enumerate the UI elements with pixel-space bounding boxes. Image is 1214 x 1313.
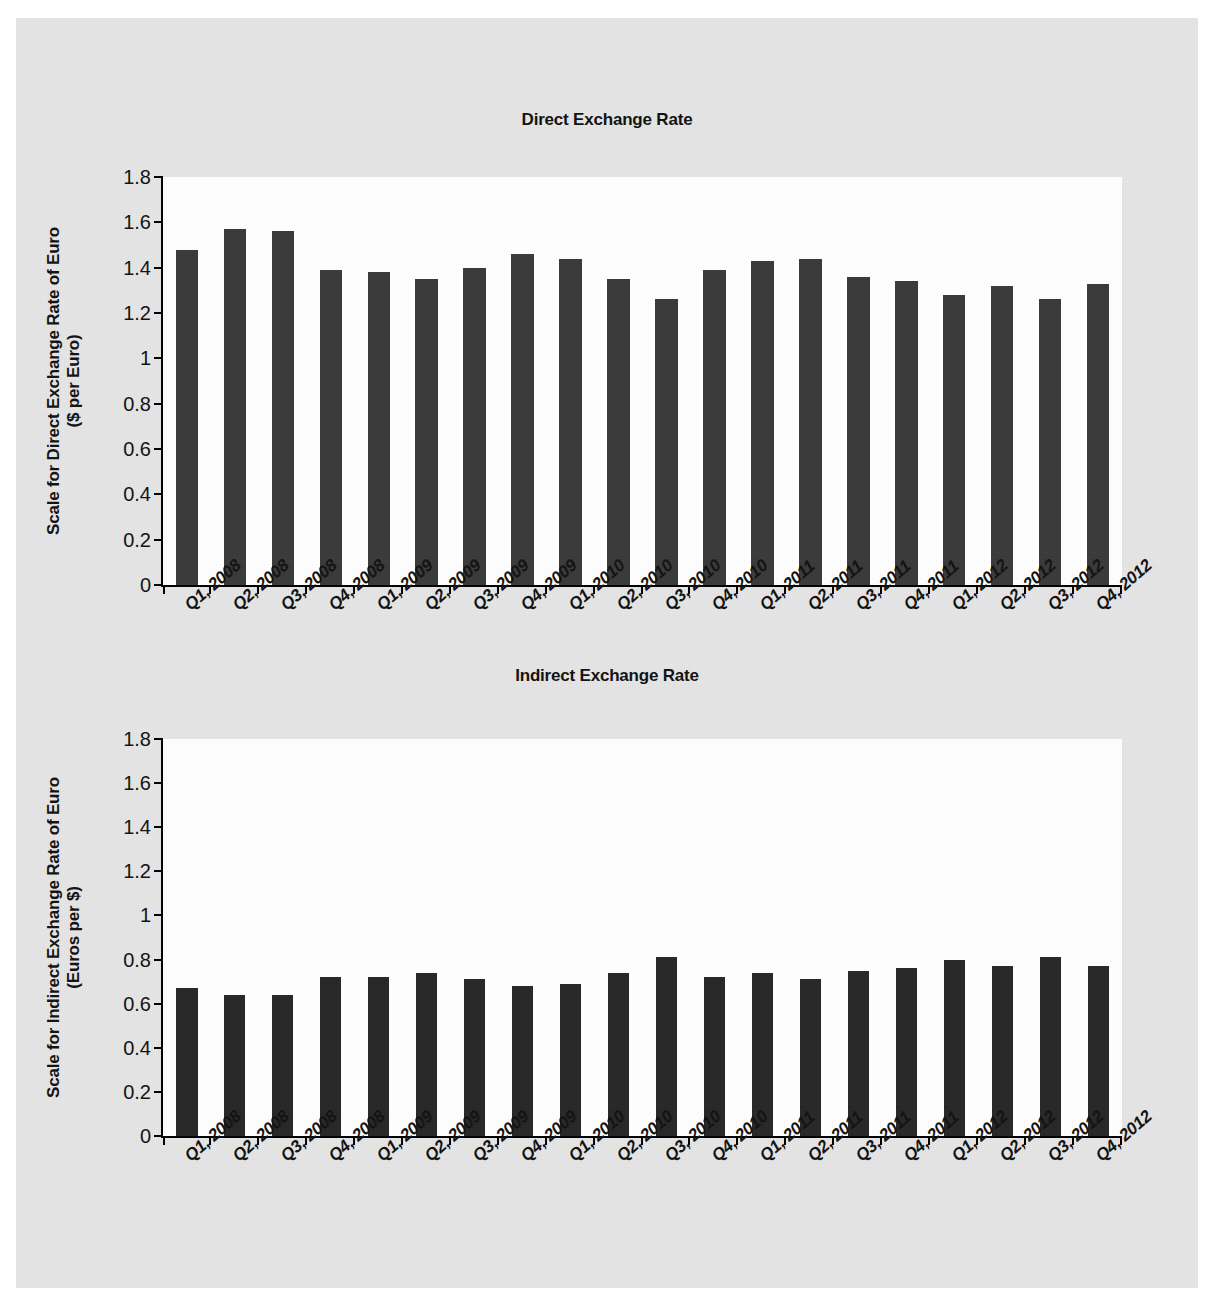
- x-label-slot: Q3, 2011: [832, 596, 880, 597]
- bar-slot[interactable]: [738, 177, 786, 585]
- bar[interactable]: [511, 254, 534, 585]
- bar[interactable]: [415, 279, 438, 585]
- x-label-slot: Q4, 2010: [688, 1147, 736, 1148]
- x-label-slot: Q3, 2012: [1024, 1147, 1072, 1148]
- bar[interactable]: [607, 279, 630, 585]
- bar-slot[interactable]: [499, 177, 547, 585]
- bar-slot[interactable]: [451, 177, 499, 585]
- bar-slot[interactable]: [834, 177, 882, 585]
- x-label-slot: Q1, 2009: [353, 1147, 401, 1148]
- bar[interactable]: [847, 277, 870, 585]
- x-label-slot: Q3, 2008: [257, 1147, 305, 1148]
- y-tick-label: 0.4: [123, 483, 151, 506]
- bar-slot[interactable]: [930, 177, 978, 585]
- x-label-slot: Q3, 2010: [641, 1147, 689, 1148]
- bar-slot[interactable]: [1074, 739, 1122, 1136]
- y-tick-label: 1.2: [123, 860, 151, 883]
- x-label-slot: Q1, 2008: [161, 1147, 209, 1148]
- bar[interactable]: [368, 272, 391, 585]
- bar-slot[interactable]: [259, 739, 307, 1136]
- y-tick-label: 0.8: [123, 392, 151, 415]
- bar[interactable]: [176, 250, 199, 585]
- bar[interactable]: [224, 229, 247, 585]
- x-label-slot: Q1, 2010: [545, 596, 593, 597]
- x-label-slot: Q4, 2008: [305, 596, 353, 597]
- bar[interactable]: [703, 270, 726, 585]
- y-tick-label: 0.6: [123, 438, 151, 461]
- bar-slot[interactable]: [643, 177, 691, 585]
- bar[interactable]: [320, 270, 343, 585]
- bar-slot[interactable]: [882, 739, 930, 1136]
- bar-slot[interactable]: [259, 177, 307, 585]
- bar-slot[interactable]: [547, 177, 595, 585]
- x-label-slot: Q1, 2010: [545, 1147, 593, 1148]
- bar-slot[interactable]: [211, 739, 259, 1136]
- bar-slot[interactable]: [834, 739, 882, 1136]
- bar[interactable]: [895, 281, 918, 585]
- x-label-slot: Q4, 2011: [880, 1147, 928, 1148]
- bar-slot[interactable]: [211, 177, 259, 585]
- x-label-slot: Q2, 2009: [401, 1147, 449, 1148]
- x-label-slot: Q2, 2010: [593, 596, 641, 597]
- bar[interactable]: [943, 295, 966, 585]
- bar-slot[interactable]: [690, 177, 738, 585]
- bar-slot[interactable]: [978, 739, 1026, 1136]
- bar[interactable]: [991, 286, 1014, 585]
- y-tick-label: 1.4: [123, 256, 151, 279]
- bar-slot[interactable]: [451, 739, 499, 1136]
- bar-slot[interactable]: [978, 177, 1026, 585]
- x-label-slot: Q2, 2011: [784, 596, 832, 597]
- bar[interactable]: [463, 268, 486, 585]
- bar-slot[interactable]: [499, 739, 547, 1136]
- x-tick-mark: [163, 1136, 165, 1145]
- bar[interactable]: [1039, 299, 1062, 585]
- y-axis-title-direct-line1: Scale for Direct Exchange Rate of Euro: [44, 227, 63, 535]
- bar-slot[interactable]: [595, 177, 643, 585]
- x-label-slot: Q2, 2008: [209, 1147, 257, 1148]
- x-label-slot: Q2, 2012: [976, 596, 1024, 597]
- x-label-slot: Q3, 2009: [449, 596, 497, 597]
- bar-slot[interactable]: [882, 177, 930, 585]
- bar-slot[interactable]: [163, 177, 211, 585]
- x-label-slot: Q4, 2012: [1072, 1147, 1120, 1148]
- y-tick-label: 1.6: [123, 772, 151, 795]
- bar-slot[interactable]: [307, 177, 355, 585]
- bar-slot[interactable]: [595, 739, 643, 1136]
- y-axis-title-direct: Scale for Direct Exchange Rate of Euro (…: [44, 177, 84, 585]
- bar-slot[interactable]: [1074, 177, 1122, 585]
- bar-slot[interactable]: [1026, 177, 1074, 585]
- x-label-slot: Q3, 2012: [1024, 596, 1072, 597]
- x-label-slot: Q1, 2012: [928, 596, 976, 597]
- bar[interactable]: [799, 259, 822, 585]
- bar-slot[interactable]: [738, 739, 786, 1136]
- bar-slot[interactable]: [307, 739, 355, 1136]
- bar[interactable]: [559, 259, 582, 585]
- bar-slot[interactable]: [163, 739, 211, 1136]
- bar[interactable]: [272, 231, 295, 585]
- bar-slot[interactable]: [643, 739, 691, 1136]
- y-tick-label: 1.8: [123, 728, 151, 751]
- x-label-slot: Q1, 2008: [161, 596, 209, 597]
- bar-slot[interactable]: [355, 739, 403, 1136]
- bar[interactable]: [1087, 284, 1110, 585]
- bar-slot[interactable]: [547, 739, 595, 1136]
- bar-slot[interactable]: [786, 739, 834, 1136]
- bar-slot[interactable]: [786, 177, 834, 585]
- y-tick-label: 1: [140, 904, 151, 927]
- bar[interactable]: [751, 261, 774, 585]
- bar[interactable]: [655, 299, 678, 585]
- bar-slot[interactable]: [403, 177, 451, 585]
- y-tick-label: 0.4: [123, 1036, 151, 1059]
- x-label-slot: Q1, 2011: [736, 596, 784, 597]
- plot-area-direct: [161, 177, 1122, 587]
- bar-slot[interactable]: [403, 739, 451, 1136]
- bar-slot[interactable]: [1026, 739, 1074, 1136]
- x-label-slot: Q3, 2009: [449, 1147, 497, 1148]
- x-label-slot: Q1, 2012: [928, 1147, 976, 1148]
- bar-slot[interactable]: [355, 177, 403, 585]
- bar-slot[interactable]: [690, 739, 738, 1136]
- x-label-slot: Q2, 2011: [784, 1147, 832, 1148]
- y-tick-label: 0.6: [123, 992, 151, 1015]
- bar[interactable]: [176, 988, 197, 1136]
- bar-slot[interactable]: [930, 739, 978, 1136]
